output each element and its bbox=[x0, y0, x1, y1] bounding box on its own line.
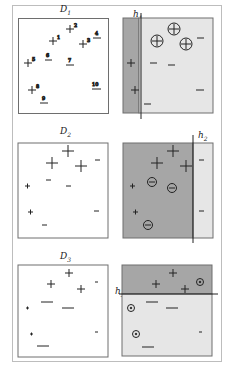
h3-classifier bbox=[0, 0, 228, 369]
